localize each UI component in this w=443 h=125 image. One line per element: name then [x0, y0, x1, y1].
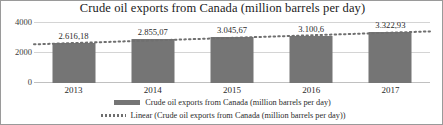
bar-group: 3.100,6 — [272, 22, 351, 83]
bar-value-label: 3.100,6 — [298, 25, 324, 34]
x-axis-tick-2014: 2014 — [113, 85, 192, 95]
plot-area: 2.616,182.855,073.045,673.100,63.322,93 — [34, 22, 430, 83]
bar-value-label: 3.322,93 — [375, 21, 405, 30]
legend-dotted-line-icon — [100, 114, 126, 117]
bar[interactable] — [210, 37, 253, 83]
x-axis-tick-2013: 2013 — [34, 85, 113, 95]
y-axis-tick-0: 0 — [4, 78, 32, 86]
chart-legend: Crude oil exports from Canada (million b… — [1, 96, 443, 122]
bar-group: 3.322,93 — [351, 22, 430, 83]
bar-group: 2.855,07 — [113, 22, 192, 83]
bar[interactable] — [131, 39, 174, 83]
bar[interactable] — [52, 43, 95, 83]
chart-container: Crude oil exports from Canada (million b… — [0, 0, 443, 125]
bar[interactable] — [369, 32, 412, 83]
y-axis: 4000 2000 0 — [1, 22, 32, 83]
legend-label-bars: Crude oil exports from Canada (million b… — [145, 98, 331, 107]
x-axis-tick-2017: 2017 — [351, 85, 430, 95]
x-axis-tick-2016: 2016 — [272, 85, 351, 95]
bar-value-label: 2.855,07 — [138, 28, 168, 37]
y-axis-tick-2000: 2000 — [4, 48, 32, 56]
bar[interactable] — [290, 36, 333, 83]
y-axis-tick-4000: 4000 — [4, 18, 32, 26]
legend-item-bars: Crude oil exports from Canada (million b… — [1, 96, 443, 109]
bar-value-label: 2.616,18 — [59, 32, 89, 41]
x-axis-tick-2015: 2015 — [192, 85, 271, 95]
legend-label-trendline: Linear (Crude oil exports from Canada (m… — [131, 111, 346, 120]
bar-group: 2.616,18 — [34, 22, 113, 83]
legend-item-trendline: Linear (Crude oil exports from Canada (m… — [1, 109, 443, 122]
chart-title: Crude oil exports from Canada (million b… — [1, 1, 443, 16]
bar-group: 3.045,67 — [192, 22, 271, 83]
legend-bar-swatch-icon — [114, 100, 140, 105]
bar-value-label: 3.045,67 — [217, 26, 247, 35]
